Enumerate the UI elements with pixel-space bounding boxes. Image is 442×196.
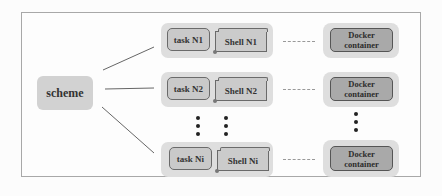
connector-n2 xyxy=(283,89,315,90)
ellipsis-dot-task xyxy=(196,116,200,120)
ellipsis-dot-docker xyxy=(354,112,358,116)
ellipsis-dot-shell xyxy=(224,116,228,120)
scheme-node: scheme xyxy=(37,76,93,110)
task-node-n1: task N1 xyxy=(167,28,210,51)
docker-container-n1: Docker container xyxy=(330,28,393,52)
ellipsis-dot-task xyxy=(196,132,200,136)
shell-node-ni: Shell Ni xyxy=(217,150,269,171)
scheme-label: scheme xyxy=(46,86,83,101)
shell-node-n1: Shell N1 xyxy=(215,31,267,52)
ellipsis-dot-task xyxy=(196,124,200,128)
ellipsis-dot-shell xyxy=(224,132,228,136)
task-node-ni: task Ni xyxy=(169,147,212,170)
ellipsis-dot-docker xyxy=(354,128,358,132)
ellipsis-dot-docker xyxy=(354,120,358,124)
task-node-n2: task N2 xyxy=(167,77,210,100)
docker-container-n2: Docker container xyxy=(330,77,393,101)
shell-node-n2: Shell N2 xyxy=(215,80,267,101)
docker-container-ni: Docker container xyxy=(330,146,393,171)
connector-n1 xyxy=(283,41,315,42)
ellipsis-dot-shell xyxy=(224,124,228,128)
connector-ni xyxy=(283,159,315,160)
